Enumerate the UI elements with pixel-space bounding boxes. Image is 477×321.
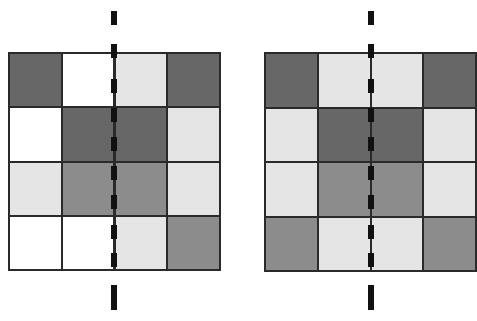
grid-cell-light	[167, 162, 220, 216]
grid-cell-light	[115, 53, 168, 107]
grid-cell-light	[167, 107, 220, 161]
grid-cell-dark	[115, 107, 168, 161]
grid-cell-light	[9, 162, 62, 216]
grid-cell-light	[371, 217, 424, 272]
symmetry-axis-left	[109, 0, 119, 321]
axis-dash	[111, 108, 117, 122]
axis-dash	[111, 44, 117, 58]
axis-dash	[111, 225, 117, 239]
grid-cell-light	[265, 108, 318, 163]
grid-cell-dark	[9, 53, 62, 107]
grid-cell-white	[62, 216, 115, 270]
axis-dash	[111, 195, 117, 209]
axis-dash	[368, 166, 374, 180]
grid-cell-dark	[371, 108, 424, 163]
axis-dash	[368, 253, 374, 267]
axis-dash	[368, 195, 374, 209]
axis-dash	[368, 285, 374, 299]
grid-cell-light	[318, 217, 371, 272]
axis-dash	[368, 137, 374, 151]
grid-cell-white	[9, 216, 62, 270]
axis-dash	[111, 253, 117, 267]
grid-cell-light	[318, 53, 371, 108]
grid-cell-mid	[371, 162, 424, 217]
grid-cell-dark	[265, 53, 318, 108]
grid-cell-dark	[318, 108, 371, 163]
grid-cell-light	[423, 162, 476, 217]
grid-cell-dark	[423, 53, 476, 108]
grid-cell-dark	[62, 107, 115, 161]
axis-dash	[111, 166, 117, 180]
axis-dash	[368, 79, 374, 93]
axis-dash	[111, 137, 117, 151]
axis-dash	[111, 285, 117, 299]
grid-cell-light	[423, 108, 476, 163]
axis-dash	[111, 299, 117, 310]
grid-cell-light	[265, 162, 318, 217]
grid-cell-mid	[115, 162, 168, 216]
grid-cell-white	[9, 107, 62, 161]
axis-dash	[368, 225, 374, 239]
grid-cell-white	[62, 53, 115, 107]
grid-cell-mid	[62, 162, 115, 216]
grid-cell-light	[371, 53, 424, 108]
axis-dash	[368, 108, 374, 122]
symmetry-axis-right	[366, 0, 376, 321]
grid-cell-mid	[423, 217, 476, 272]
grid-cell-light	[115, 216, 168, 270]
axis-dash	[368, 299, 374, 310]
axis-dash	[111, 11, 117, 25]
grid-cell-mid	[265, 217, 318, 272]
axis-dash	[368, 44, 374, 58]
grid-cell-mid	[167, 216, 220, 270]
grid-cell-dark	[167, 53, 220, 107]
grid-cell-mid	[318, 162, 371, 217]
axis-dash	[111, 79, 117, 93]
axis-dash	[368, 11, 374, 25]
